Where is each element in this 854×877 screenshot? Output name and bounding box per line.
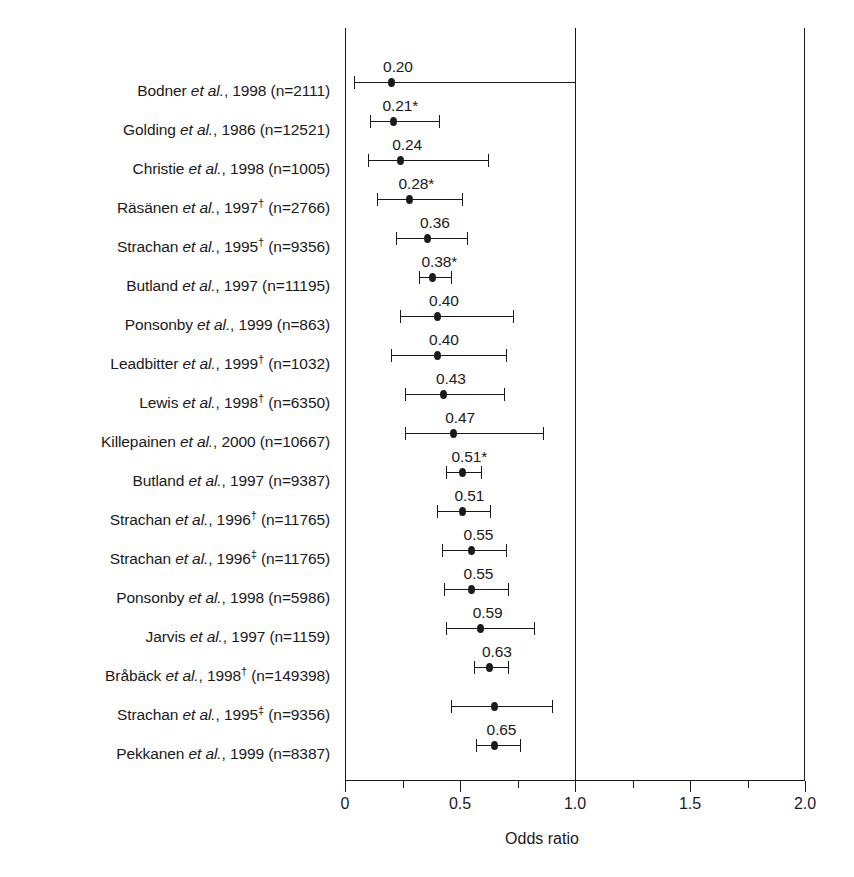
odds-ratio-point [468, 585, 475, 594]
study-footnote-marker: † [258, 392, 264, 404]
x-axis-tick-label: 0 [341, 795, 350, 813]
forest-row: 0.28* [345, 181, 805, 220]
study-sample-size: (n=6350) [268, 394, 330, 411]
confidence-interval-line [370, 121, 439, 122]
ci-cap-lower [476, 739, 477, 752]
confidence-interval-line [446, 628, 533, 629]
forest-row: 0.51* [345, 454, 805, 493]
odds-ratio-point [434, 312, 441, 321]
ci-cap-lower [444, 583, 445, 596]
forest-row: 0.51 [345, 493, 805, 532]
odds-ratio-value-label: 0.51* [451, 449, 487, 465]
study-sample-size: (n=12521) [260, 121, 330, 138]
study-year: 1999 [239, 316, 273, 333]
study-sample-size: (n=2111) [271, 82, 330, 99]
study-year: 1998 [232, 82, 266, 99]
study-footnote-marker: † [251, 509, 257, 521]
ci-cap-upper [543, 427, 544, 440]
study-sample-size: (n=863) [277, 316, 330, 333]
study-sample-size: (n=9356) [268, 706, 330, 723]
odds-ratio-point [459, 507, 466, 516]
ci-cap-upper [488, 154, 489, 167]
odds-ratio-point [406, 195, 413, 204]
ci-cap-upper [467, 232, 468, 245]
study-etal: et al. [183, 355, 216, 372]
study-label: Butland et al., 1997 (n=11195) [0, 278, 330, 294]
odds-ratio-value-label: 0.43 [436, 371, 466, 387]
forest-row: 0.55 [345, 532, 805, 571]
odds-ratio-value-label: 0.21* [382, 98, 418, 114]
ci-cap-lower [419, 271, 420, 284]
x-axis-tick-major [575, 781, 576, 792]
study-label: Räsänen et al., 1997† (n=2766) [0, 200, 330, 216]
odds-ratio-point [491, 741, 498, 750]
study-etal: et al. [166, 667, 199, 684]
study-year: 1997 [224, 199, 258, 216]
forest-row: 0.55 [345, 571, 805, 610]
ci-cap-upper [508, 583, 509, 596]
study-etal: et al. [175, 511, 208, 528]
odds-ratio-point [434, 351, 441, 360]
x-axis-tick-major [345, 781, 346, 792]
forest-plot-figure: Bodner et al., 1998 (n=2111)Golding et a… [0, 0, 854, 877]
confidence-interval-line [405, 433, 543, 434]
study-etal: et al. [189, 589, 222, 606]
study-etal: et al. [180, 121, 213, 138]
odds-ratio-value-label: 0.24 [392, 137, 422, 153]
odds-ratio-value-label: 0.65 [487, 722, 517, 738]
odds-ratio-point [388, 78, 395, 87]
ci-cap-upper [508, 661, 509, 674]
study-author: Räsänen [117, 199, 183, 216]
study-label: Pekkanen et al., 1999 (n=8387) [0, 746, 330, 762]
study-sample-size: (n=1005) [268, 160, 330, 177]
ci-cap-lower [437, 505, 438, 518]
study-sample-size: (n=1159) [269, 628, 330, 645]
forest-row: 0.36 [345, 220, 805, 259]
odds-ratio-value-label: 0.28* [399, 176, 435, 192]
ci-cap-upper [504, 388, 505, 401]
study-author: Strachan [110, 511, 171, 528]
odds-ratio-point [397, 156, 404, 165]
x-axis-tick-label: 0.5 [449, 795, 471, 813]
odds-ratio-value-label: 0.51 [454, 488, 484, 504]
study-footnote-marker: ‡ [251, 548, 257, 560]
study-etal: et al. [180, 433, 213, 450]
forest-row: 0.40 [345, 298, 805, 337]
study-label: Leadbitter et al., 1999† (n=1032) [0, 356, 330, 372]
study-label: Butland et al., 1997 (n=9387) [0, 473, 330, 489]
plot-panel: 0.200.21*0.240.28*0.360.38*0.400.400.430… [345, 28, 805, 780]
odds-ratio-point [450, 429, 457, 438]
study-year: 1995 [224, 238, 258, 255]
study-label: Ponsonby et al., 1999 (n=863) [0, 317, 330, 333]
study-year: 1997 [231, 628, 265, 645]
study-year: 1997 [230, 472, 264, 489]
odds-ratio-point [390, 117, 397, 126]
odds-ratio-point [459, 468, 466, 477]
study-author: Pekkanen [116, 745, 184, 762]
odds-ratio-point [486, 663, 493, 672]
study-sample-size: (n=149398) [251, 667, 330, 684]
ci-cap-upper [506, 544, 507, 557]
odds-ratio-value-label: 0.38* [422, 254, 458, 270]
study-label: Christie et al., 1998 (n=1005) [0, 161, 330, 177]
forest-row: 0.47 [345, 415, 805, 454]
study-footnote-marker: † [258, 353, 264, 365]
study-label-column: Bodner et al., 1998 (n=2111)Golding et a… [0, 0, 330, 790]
study-label: Strachan et al., 1995‡ (n=9356) [0, 707, 330, 723]
ci-cap-lower [368, 154, 369, 167]
study-author: Butland [132, 472, 184, 489]
study-sample-size: (n=9356) [268, 238, 330, 255]
study-etal: et al. [175, 550, 208, 567]
odds-ratio-value-label: 0.47 [445, 410, 475, 426]
confidence-interval-line [368, 160, 488, 161]
study-author: Butland [126, 277, 178, 294]
study-year: 1986 [221, 121, 255, 138]
study-author: Leadbitter [110, 355, 178, 372]
forest-row: 0.59 [345, 610, 805, 649]
study-year: 1996 [217, 511, 251, 528]
study-author: Bodner [137, 82, 186, 99]
study-sample-size: (n=11765) [261, 511, 330, 528]
study-year: 1996 [217, 550, 251, 567]
odds-ratio-value-label: 0.20 [383, 59, 413, 75]
ci-cap-upper [451, 271, 452, 284]
